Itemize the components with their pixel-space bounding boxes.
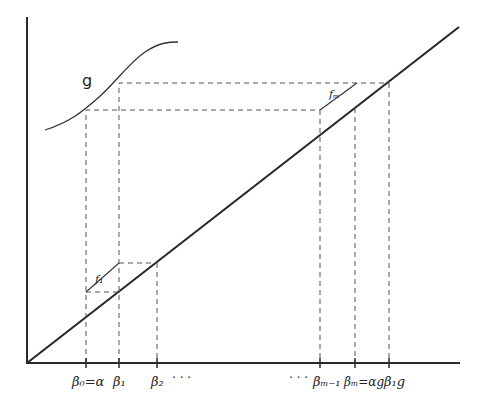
- ellipsis-right: · · ·: [289, 371, 308, 385]
- diagram-canvas: g f₁ fₘ β₀=α β₁ β₂ · · · · · · βₘ₋₁ βₘ=α…: [0, 0, 483, 398]
- f1-label: f₁: [94, 273, 103, 286]
- label-beta2: β₂: [150, 374, 164, 389]
- label-beta1: β₁: [112, 374, 126, 389]
- label-beta0: β₀=α: [71, 374, 105, 389]
- g-curve-label: g: [82, 71, 92, 90]
- ellipsis-left: · · ·: [172, 371, 191, 385]
- label-beta-m: βₘ=αg: [343, 375, 384, 389]
- dashed-guide-beta0-top: [86, 110, 320, 363]
- dashed-guide-beta1-top: [119, 83, 389, 363]
- fm-label: fₘ: [328, 88, 340, 101]
- label-beta-m-1: βₘ₋₁: [312, 374, 341, 389]
- label-beta1g: β₁g: [383, 374, 405, 389]
- g-curve: [45, 42, 178, 130]
